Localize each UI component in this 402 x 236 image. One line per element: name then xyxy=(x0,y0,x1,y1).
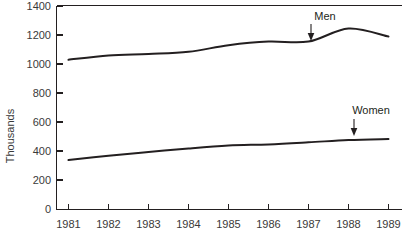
y-axis-ticks xyxy=(57,6,63,180)
x-axis-ticks xyxy=(69,204,389,210)
y-tick-label-200: 200 xyxy=(33,174,51,186)
line-chart: 1400 1200 1000 800 600 400 200 0 Thousan… xyxy=(0,0,402,236)
x-tick-label-1985: 1985 xyxy=(216,218,240,230)
annotation-label-men: Men xyxy=(314,10,335,22)
series-line-women xyxy=(69,139,389,160)
x-tick-label-1986: 1986 xyxy=(256,218,280,230)
x-tick-label-1983: 1983 xyxy=(136,218,160,230)
y-tick-label-1000: 1000 xyxy=(27,58,51,70)
chart-axes xyxy=(57,6,402,210)
annotation-arrow-women-head xyxy=(351,128,358,136)
x-tick-label-1987: 1987 xyxy=(296,218,320,230)
y-tick-label-1400: 1400 xyxy=(27,0,51,12)
series-line-men xyxy=(69,28,389,59)
x-tick-label-1981: 1981 xyxy=(56,218,80,230)
annotation-label-women: Women xyxy=(352,104,390,116)
x-tick-label-1982: 1982 xyxy=(96,218,120,230)
y-tick-label-600: 600 xyxy=(33,116,51,128)
y-tick-label-0: 0 xyxy=(45,203,51,215)
y-tick-label-1200: 1200 xyxy=(27,29,51,41)
x-tick-label-1989: 1989 xyxy=(376,218,400,230)
y-axis-tick-labels: 1400 1200 1000 800 600 400 200 0 xyxy=(27,0,51,215)
x-axis-tick-labels: 1981 1982 1983 1984 1985 1986 1987 1988 … xyxy=(56,218,400,230)
chart-container: 1400 1200 1000 800 600 400 200 0 Thousan… xyxy=(0,0,402,236)
y-axis-title: Thousands xyxy=(4,108,16,163)
annotation-men: Men xyxy=(308,10,336,41)
y-tick-label-400: 400 xyxy=(33,145,51,157)
annotation-women: Women xyxy=(351,104,390,136)
x-tick-label-1988: 1988 xyxy=(336,218,360,230)
x-tick-label-1984: 1984 xyxy=(176,218,200,230)
y-tick-label-800: 800 xyxy=(33,87,51,99)
